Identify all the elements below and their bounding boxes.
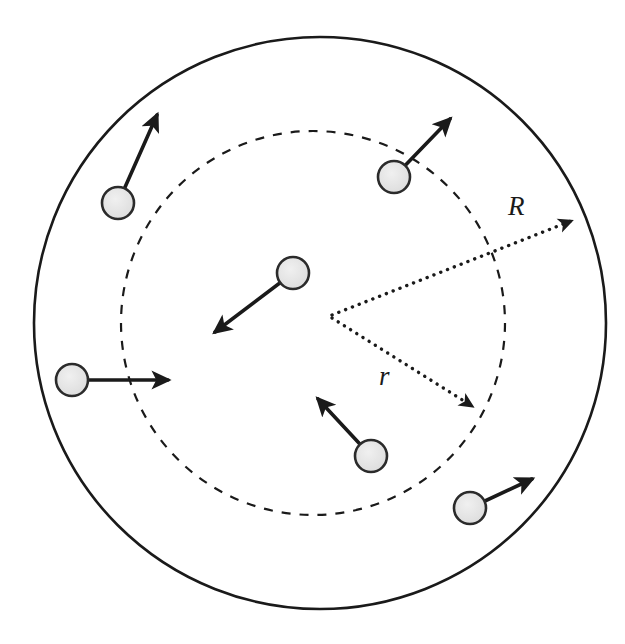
particle-upper-right bbox=[378, 119, 450, 193]
particle-lower-center bbox=[318, 399, 387, 472]
particle-center bbox=[215, 257, 309, 332]
outer-solid-circle bbox=[34, 37, 606, 609]
inner-dashed-circle bbox=[121, 131, 505, 515]
label-R: R bbox=[507, 191, 525, 221]
label-r: r bbox=[379, 361, 390, 391]
physics-schematic-svg: R r bbox=[0, 0, 625, 644]
particle-circle-upper-left bbox=[102, 187, 134, 219]
particle-circle-center bbox=[277, 257, 309, 289]
radius-arrow-R bbox=[332, 221, 571, 315]
radius-arrow-r bbox=[332, 318, 472, 406]
particle-lower-right bbox=[454, 479, 532, 524]
particle-circle-upper-right bbox=[378, 161, 410, 193]
radius-indicator-arrows bbox=[332, 221, 571, 406]
particle-upper-left bbox=[102, 115, 157, 219]
particle-circle-lower-right bbox=[454, 492, 486, 524]
outer-circle-path bbox=[34, 37, 606, 609]
particle-left bbox=[56, 364, 168, 396]
diagram-canvas: R r bbox=[0, 0, 625, 644]
particle-circle-lower-center bbox=[355, 440, 387, 472]
inner-circle-path bbox=[121, 131, 505, 515]
particle-circle-left bbox=[56, 364, 88, 396]
particle-collection bbox=[56, 115, 532, 524]
